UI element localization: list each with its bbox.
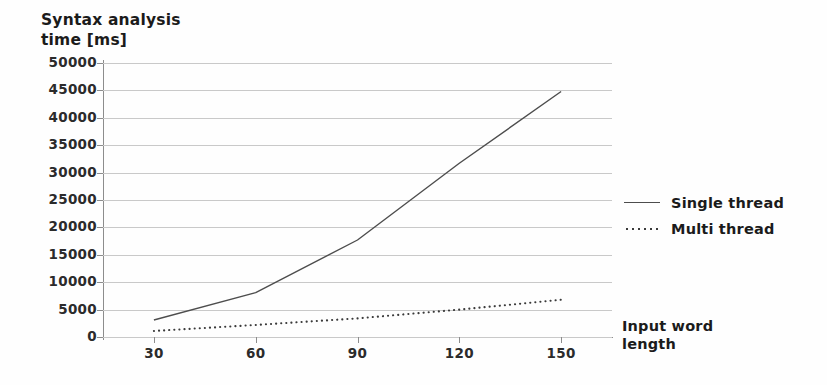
y-axis-tick-label: 20000 [25,218,97,234]
legend-label: Multi thread [671,221,774,237]
x-axis-tick-label: 30 [144,345,163,361]
series-lines [103,63,612,337]
y-axis-tick-label: 30000 [25,164,97,180]
y-axis-tick-label: 5000 [25,301,97,317]
y-axis-tick-label: 15000 [25,246,97,262]
legend-item-single-thread: Single thread [622,190,822,216]
x-axis-tick-label: 120 [445,345,474,361]
y-axis-tick-label: 25000 [25,191,97,207]
x-axis-tick-label: 150 [547,345,576,361]
chart-figure: Syntax analysis time [ms] 05000100001500… [0,0,827,385]
y-axis-tick-label: 50000 [25,54,97,70]
series-line-multi-thread [154,300,561,331]
y-axis-tick-label: 45000 [25,81,97,97]
x-axis-tick [561,337,562,343]
y-axis-tick-label: 40000 [25,109,97,125]
y-axis-tick-label: 35000 [25,136,97,152]
x-axis-tick-label: 60 [246,345,265,361]
x-axis-tick-label: 90 [348,345,367,361]
plot-area [103,63,612,337]
x-axis-title: Input word length [622,317,812,353]
legend-item-multi-thread: Multi thread [622,216,822,242]
y-axis-tick-label: 0 [25,328,97,344]
x-axis-tick [459,337,460,343]
legend-swatch-dotted-icon [622,222,662,236]
x-axis-tick [256,337,257,343]
legend-swatch-solid-icon [622,196,662,210]
x-axis-tick [154,337,155,343]
y-axis-tick-labels: 0500010000150002000025000300003500040000… [23,0,97,385]
x-axis-tick [358,337,359,343]
y-axis-tick-label: 10000 [25,273,97,289]
chart-legend: Single threadMulti thread [622,190,822,242]
legend-label: Single thread [671,195,784,211]
series-line-single-thread [154,92,561,321]
